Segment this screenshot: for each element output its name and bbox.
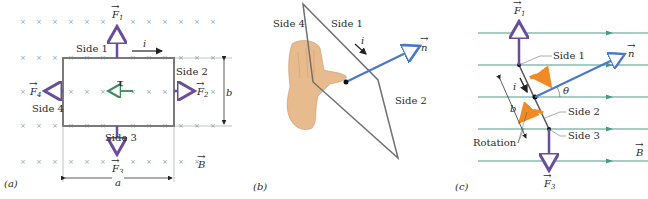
side-1-label-b: Side 1 xyxy=(331,18,363,29)
side-2-label: Side 2 xyxy=(176,66,208,77)
current-label-b: i xyxy=(361,35,364,46)
torque-label: τ xyxy=(117,77,124,88)
svg-text:×: × xyxy=(146,88,152,96)
svg-text:×: × xyxy=(20,54,26,62)
vector-arrow-f1-c: → xyxy=(513,0,522,8)
side-2-label-b: Side 2 xyxy=(395,95,427,106)
dimension-b-label-c: b xyxy=(510,103,516,114)
svg-text:×: × xyxy=(146,18,152,26)
svg-text:×: × xyxy=(36,18,42,26)
svg-text:×: × xyxy=(84,18,90,26)
svg-text:×: × xyxy=(52,18,58,26)
vector-arrow-f3-c: → xyxy=(543,170,552,181)
panel-b-tag: (b) xyxy=(253,181,267,192)
svg-text:×: × xyxy=(68,88,74,96)
side-3-label: Side 3 xyxy=(105,132,137,143)
svg-text:×: × xyxy=(52,54,58,62)
svg-text:×: × xyxy=(130,18,136,26)
vector-arrow-f1: → xyxy=(111,1,120,12)
side-4-label-b: Side 4 xyxy=(273,18,305,29)
current-label-c: i xyxy=(513,81,516,92)
side-4-label: Side 4 xyxy=(32,103,64,114)
vector-arrow-n-c: → xyxy=(627,40,636,51)
svg-text:×: × xyxy=(84,158,90,166)
panel-c-tag: (c) xyxy=(455,181,469,192)
panel-c: F1 → F3 → n → θ i b Side 1 Side 2 Side 3… xyxy=(455,0,648,192)
side-2-label-c: Side 2 xyxy=(568,106,600,117)
svg-text:×: × xyxy=(178,18,184,26)
svg-text:×: × xyxy=(52,122,58,130)
svg-text:×: × xyxy=(194,18,200,26)
panel-b: n → i Side 4 Side 1 Side 2 (b) xyxy=(253,4,429,192)
rotation-arrow-lower xyxy=(525,111,543,116)
side-1-label-c: Side 1 xyxy=(553,50,585,61)
svg-text:×: × xyxy=(20,122,26,130)
vector-arrow-b-c: → xyxy=(635,139,644,150)
svg-text:×: × xyxy=(130,88,136,96)
rotation-arrow-upper xyxy=(530,75,546,80)
svg-text:×: × xyxy=(36,122,42,130)
rotation-label: Rotation xyxy=(473,137,517,148)
svg-text:×: × xyxy=(100,158,106,166)
panel-a-tag: (a) xyxy=(4,178,18,189)
current-label: i xyxy=(143,38,146,49)
side-3-label-c: Side 3 xyxy=(568,130,600,141)
vector-arrow-n-b: → xyxy=(420,33,429,44)
vector-arrow-f3: → xyxy=(111,155,120,166)
current-loop xyxy=(63,58,174,126)
svg-text:×: × xyxy=(20,158,26,166)
angle-theta-label: θ xyxy=(563,85,569,96)
svg-text:×: × xyxy=(20,88,26,96)
svg-text:×: × xyxy=(130,158,136,166)
side-1-label: Side 1 xyxy=(76,43,108,54)
svg-text:×: × xyxy=(210,18,216,26)
dimension-a-label: a xyxy=(115,177,121,188)
vector-arrow-f2: → xyxy=(196,78,205,89)
svg-text:×: × xyxy=(36,54,42,62)
magnetic-torque-diagram: ×××××××××××× ×××××××××××× ×××××××× ×××××… xyxy=(0,0,648,199)
vector-arrow-f4: → xyxy=(29,78,38,89)
svg-text:×: × xyxy=(162,88,168,96)
svg-text:×: × xyxy=(84,88,90,96)
svg-text:×: × xyxy=(68,18,74,26)
svg-text:×: × xyxy=(52,158,58,166)
svg-text:×: × xyxy=(100,88,106,96)
normal-vector-arrow-c xyxy=(535,55,623,97)
svg-text:×: × xyxy=(210,88,216,96)
panel-a: ×××××××××××× ×××××××××××× ×××××××× ×××××… xyxy=(4,1,232,189)
svg-text:×: × xyxy=(146,158,152,166)
svg-text:×: × xyxy=(178,158,184,166)
svg-text:×: × xyxy=(100,18,106,26)
dimension-b-label: b xyxy=(226,87,232,98)
svg-text:×: × xyxy=(36,158,42,166)
vector-arrow-b-a: → xyxy=(197,151,206,162)
svg-text:×: × xyxy=(68,158,74,166)
svg-text:×: × xyxy=(20,18,26,26)
svg-text:×: × xyxy=(162,158,168,166)
normal-vector-arrow xyxy=(348,47,418,81)
svg-text:×: × xyxy=(162,18,168,26)
